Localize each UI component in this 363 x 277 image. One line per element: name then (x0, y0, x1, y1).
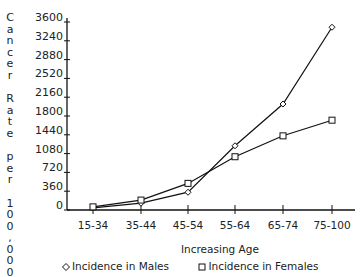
y-tick-label: 3240 (35, 30, 63, 43)
x-axis-title: Increasing Age (181, 243, 259, 255)
series-line-females (93, 120, 332, 207)
legend: Incidence in Males Incidence in Females (62, 260, 345, 272)
legend-label-males: Incidence in Males (72, 260, 169, 272)
x-tick-label: 45-54 (173, 219, 204, 231)
x-tick-label: 15-34 (78, 219, 109, 231)
legend-item-males: Incidence in Males (62, 260, 169, 272)
y-tick-label: 2160 (35, 86, 63, 99)
y-tick-label: 360 (42, 180, 63, 193)
data-point-square (138, 197, 144, 203)
y-tick-label: 1080 (35, 143, 63, 156)
y-tick-label: 3600 (35, 11, 63, 24)
x-tick-label: 65-74 (268, 219, 299, 231)
data-point-square (232, 154, 238, 160)
legend-item-females: Incidence in Females (198, 260, 318, 272)
series-line-males (93, 27, 332, 208)
data-point-square (185, 180, 191, 186)
data-point-diamond (329, 24, 335, 30)
y-tick-label: 2880 (35, 49, 63, 62)
data-point-square (329, 117, 335, 123)
x-tick-label: 35-44 (126, 219, 157, 231)
legend-label-females: Incidence in Females (208, 260, 318, 272)
x-tick-label: 55-64 (220, 219, 251, 231)
y-tick-label: 1440 (35, 124, 63, 137)
square-marker-icon (198, 263, 206, 271)
y-tick-label: 2520 (35, 67, 63, 80)
y-tick-label: 0 (56, 199, 63, 212)
data-point-square (90, 204, 96, 210)
y-tick-label: 1800 (35, 105, 63, 118)
data-point-square (280, 133, 286, 139)
line-chart: 0360720108014401800216025202880324036001… (0, 0, 363, 277)
diamond-marker-icon (62, 263, 70, 271)
x-tick-label: 75-100 (313, 219, 350, 231)
y-tick-label: 720 (42, 161, 63, 174)
